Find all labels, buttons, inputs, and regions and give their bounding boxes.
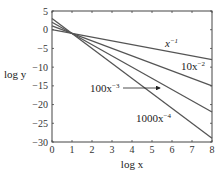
y-tick-label: −20	[32, 99, 48, 110]
y-tick-label: 0	[43, 24, 48, 35]
x-axis-label: log x	[121, 158, 144, 170]
x-tick-label: 7	[190, 144, 195, 155]
label-100x-inv3: 100x−3	[90, 82, 120, 94]
x-tick-label: 5	[150, 144, 155, 155]
x-tick-label: 3	[110, 144, 115, 155]
x-tick-label: 0	[50, 144, 55, 155]
x-tick-label: 1	[70, 144, 75, 155]
series-line	[52, 26, 212, 86]
series-lines	[52, 18, 212, 138]
y-tick-label: −10	[32, 62, 48, 73]
power-law-chart: 012345678 50−5−10−15−20−25−30 log x log …	[0, 0, 218, 175]
x-tick-labels: 012345678	[50, 144, 215, 155]
y-tick-label: −25	[32, 118, 48, 129]
x-tick-label: 8	[210, 144, 215, 155]
y-tick-label: −30	[32, 137, 48, 148]
y-tick-label: −5	[37, 43, 48, 54]
y-tick-labels: 50−5−10−15−20−25−30	[32, 6, 48, 148]
y-tick-label: 5	[43, 6, 48, 17]
x-tick-label: 6	[170, 144, 175, 155]
y-tick-label: −15	[32, 80, 48, 91]
x-tick-label: 4	[130, 144, 135, 155]
series-line	[52, 18, 212, 138]
y-axis-label: log y	[4, 68, 27, 80]
x-tick-label: 2	[90, 144, 95, 155]
label-1000x-inv4: 1000x−4	[136, 112, 171, 124]
series-line	[52, 30, 212, 60]
label-10x-inv2: 10x−2	[181, 60, 205, 72]
label-x-inv1: x−1	[164, 37, 178, 49]
